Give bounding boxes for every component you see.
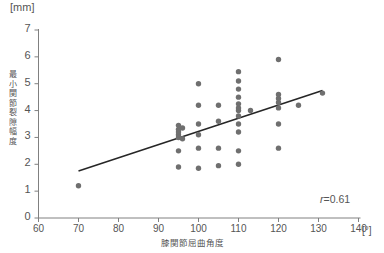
- x-tick-label: 80: [106, 223, 132, 234]
- scatter-plot-figure: [mm] [°] 最小関節裂隙幅度 膝関節屈曲角度 r=0.61 0123456…: [0, 0, 384, 253]
- x-tick-label: 70: [66, 223, 92, 234]
- data-point: [216, 119, 221, 124]
- data-point: [320, 90, 325, 95]
- data-point: [236, 162, 241, 167]
- data-point: [76, 183, 81, 188]
- data-point: [236, 86, 241, 91]
- data-point: [236, 94, 241, 99]
- data-point: [180, 125, 185, 130]
- data-point: [236, 129, 241, 134]
- data-point: [176, 164, 181, 169]
- y-tick-label: 3: [13, 129, 31, 141]
- data-point: [236, 69, 241, 74]
- data-point: [276, 92, 281, 97]
- data-point: [196, 103, 201, 108]
- data-points: [76, 57, 325, 189]
- data-point: [236, 113, 241, 118]
- x-tick-label: 110: [226, 223, 252, 234]
- data-point: [216, 163, 221, 168]
- y-tick-label: 5: [13, 76, 31, 88]
- data-point: [236, 148, 241, 153]
- y-tick-label: 6: [13, 49, 31, 61]
- axis-ticks: [35, 30, 359, 222]
- data-point: [248, 108, 253, 113]
- data-point: [180, 136, 185, 141]
- x-tick-label: 120: [266, 223, 292, 234]
- regression-line: [79, 90, 323, 171]
- data-point: [176, 148, 181, 153]
- data-point: [216, 145, 221, 150]
- data-point: [216, 103, 221, 108]
- x-tick-label: 60: [26, 223, 52, 234]
- y-tick-label: 4: [13, 103, 31, 115]
- data-point: [276, 121, 281, 126]
- data-point: [236, 121, 241, 126]
- x-tick-label: 130: [306, 223, 332, 234]
- data-point: [276, 105, 281, 110]
- data-point: [236, 101, 241, 106]
- y-tick-label: 0: [13, 210, 31, 222]
- y-tick-label: 2: [13, 156, 31, 168]
- x-tick-label: 140: [346, 223, 372, 234]
- x-tick-label: 90: [146, 223, 172, 234]
- data-point: [196, 132, 201, 137]
- data-point: [196, 81, 201, 86]
- data-point: [236, 78, 241, 83]
- x-tick-label: 100: [186, 223, 212, 234]
- data-point: [196, 145, 201, 150]
- data-point: [196, 121, 201, 126]
- data-point: [276, 145, 281, 150]
- plot-canvas: [0, 0, 384, 253]
- y-tick-label: 7: [13, 22, 31, 34]
- y-tick-label: 1: [13, 183, 31, 195]
- data-point: [196, 166, 201, 171]
- data-point: [296, 103, 301, 108]
- data-point: [276, 57, 281, 62]
